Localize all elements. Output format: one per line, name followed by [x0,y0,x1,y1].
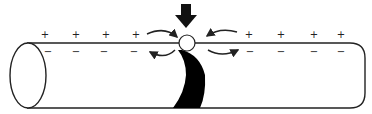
svg-text:−: − [310,46,318,57]
outside-charges-left: + + + + [41,29,140,40]
svg-text:−: − [277,46,285,57]
svg-text:+: + [277,29,285,40]
inside-charges-left: − − − − [44,46,138,57]
svg-text:+: + [245,29,253,40]
circle-icon [179,35,195,51]
svg-text:−: − [44,46,52,57]
svg-text:+: + [310,29,318,40]
svg-text:−: − [246,46,254,57]
svg-text:+: + [337,29,345,40]
outside-charges-right: + + + + [245,29,345,40]
down-arrow-icon [175,4,197,28]
svg-text:−: − [72,46,80,57]
axon-diagram: + + + + + + + + − − − − − − − − [0,0,372,114]
svg-text:+: + [102,29,110,40]
svg-text:−: − [100,46,108,57]
inside-charges-right: − − − − [246,46,345,57]
depolarized-band [173,50,205,108]
svg-text:+: + [132,29,140,40]
svg-text:+: + [72,29,80,40]
svg-text:−: − [337,46,345,57]
axon-left-end [10,43,46,108]
svg-text:+: + [41,29,49,40]
svg-text:−: − [130,46,138,57]
